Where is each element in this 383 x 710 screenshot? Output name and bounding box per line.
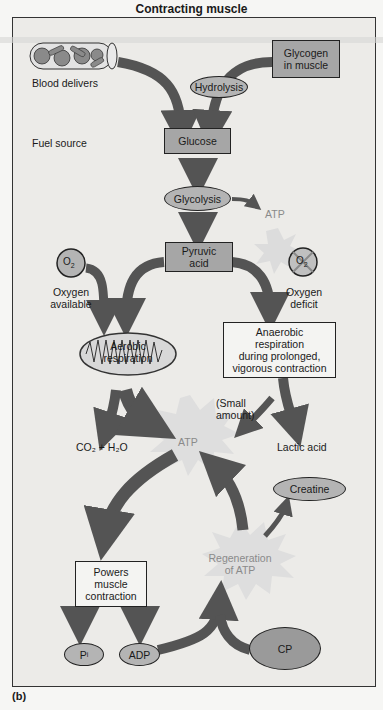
atp-glycolysis-label: ATP [265, 208, 285, 220]
small-amount-label: (Smallamount) [216, 397, 255, 421]
powers-contraction-box: Powers muscle contraction [75, 561, 147, 607]
oxygen-deficit-label: Oxygendeficit [281, 286, 327, 310]
pi-oval: Pi [64, 643, 104, 666]
lactic-acid-label: Lactic acid [277, 441, 327, 453]
anaerobic-respiration-box: Anaerobic respiration during prolonged, … [223, 322, 336, 378]
pyruvic-line1: Pyruvic [182, 245, 216, 257]
glycogen-box: Glycogen in muscle [272, 40, 340, 78]
adp-label: ADP [129, 649, 151, 661]
blood-vessel-icon [30, 43, 117, 69]
glycogen-line1: Glycogen [284, 47, 328, 59]
co2-h2o-label: CO₂ + H₂O [76, 441, 128, 453]
fuel-source-label: Fuel source [32, 137, 87, 149]
glycolysis-oval: Glycolysis [164, 186, 231, 211]
pyruvic-acid-box: Pyruvic acid [165, 242, 233, 272]
figure-caption: (b) [12, 690, 26, 702]
o2-deficit-symbol: O2 [296, 255, 308, 271]
aerobic-respiration-label: Aerobicrespiration [98, 340, 158, 364]
adp-oval: ADP [119, 643, 160, 666]
glycolysis-label: Glycolysis [174, 193, 221, 205]
glucose-label: Glucose [178, 135, 217, 147]
hydrolysis-oval: Hydrolysis [190, 76, 248, 98]
regeneration-atp-label: Regenerationof ATP [207, 552, 273, 576]
cp-label: CP [278, 643, 293, 655]
glycogen-line2: in muscle [284, 59, 328, 71]
cp-oval: CP [249, 627, 321, 670]
pyruvic-line2: acid [189, 257, 208, 269]
blood-delivers-label: Blood delivers [32, 77, 98, 89]
creatine-oval: Creatine [273, 477, 346, 501]
creatine-label: Creatine [290, 483, 330, 495]
atp-main-label: ATP [178, 436, 198, 448]
o2-available-symbol: O2 [63, 256, 75, 272]
hydrolysis-label: Hydrolysis [195, 81, 243, 93]
oxygen-available-label: Oxygenavailable [48, 286, 94, 310]
glucose-box: Glucose [164, 128, 231, 154]
